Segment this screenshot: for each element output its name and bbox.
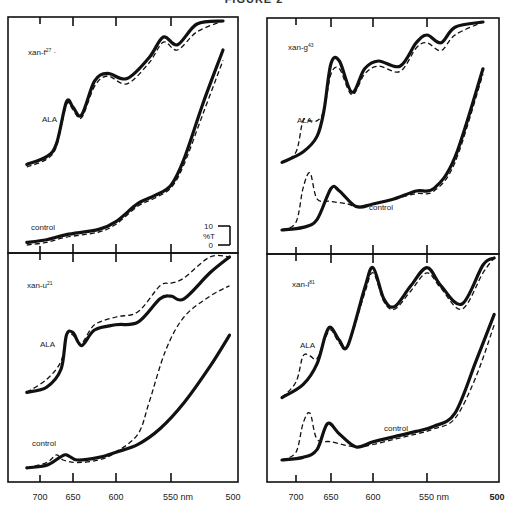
control-label-top-left: control [31,223,55,232]
scale-bar-unit: %T [203,232,215,241]
x-tick-label-bottom-right-650: 650 [323,492,338,502]
ala-label-bottom-left: ALA [40,340,56,349]
curve-bottom-left-ala-solid [27,257,230,392]
x-tick-label-bottom-left-550-nm: 550 nm [163,492,193,502]
x-tick-label-bottom-right-700: 700 [288,492,303,502]
panel-title-xan-u21: xan-u21 [27,280,53,290]
curve-top-left-control-dashed [27,60,223,245]
control-label-bottom-left: control [32,439,56,448]
x-tick-label-bottom-left-700: 700 [32,492,47,502]
x-tick-label-bottom-right-500: 500 [489,492,504,502]
ala-label-bottom-right: ALA [300,341,316,350]
x-tick-label-bottom-right-600: 600 [365,492,380,502]
x-tick-label-bottom-left-600: 600 [108,492,123,502]
ala-label-top-right: ALA [297,116,313,125]
x-tick-label-bottom-left-650: 650 [65,492,80,502]
x-tick-label-bottom-left-500: 500 [225,492,240,502]
control-label-bottom-right: control [384,424,408,433]
x-tick-label-bottom-right-550-nm: 550 nm [419,492,449,502]
curve-bottom-right-control-solid [282,314,494,460]
curve-bottom-left-control-solid [27,335,230,468]
panel-title-xan-g43: xan-g43 [288,42,314,52]
curve-top-left-ala-solid [27,21,223,164]
ala-label-top-left: ALA [42,115,58,124]
control-label-top-right: control [369,203,393,212]
scale-bar-high: 10 [204,222,213,231]
scale-bar-low: 0 [209,241,214,250]
scale-bar: 10 %T 0 [203,222,230,250]
panel-title-xan-f27: xan-f27 · [28,47,56,57]
figure-svg: xan-f27 · ALA control xan-g43 ALA contro… [0,0,508,505]
panel-title-xan-l81: xan-l81 [292,279,315,289]
